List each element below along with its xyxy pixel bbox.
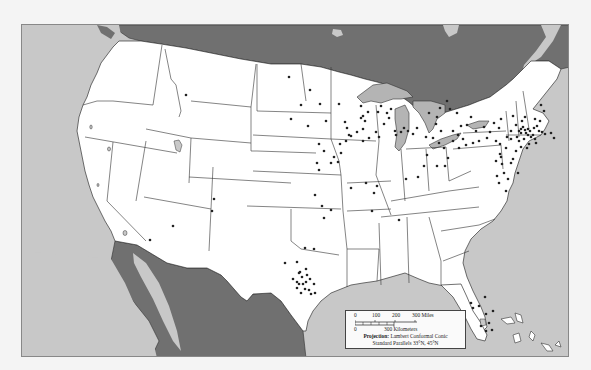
location-dot <box>498 127 501 130</box>
location-dot <box>330 209 333 212</box>
location-dot <box>486 137 489 140</box>
location-dot <box>321 205 324 208</box>
location-dot <box>403 127 406 130</box>
location-dot <box>518 130 521 133</box>
location-dot <box>485 330 488 333</box>
miles-tick-300: 300 Miles <box>412 313 434 319</box>
location-dot <box>526 147 529 150</box>
location-dot <box>491 329 494 332</box>
location-dot <box>472 142 475 145</box>
location-dot <box>493 122 496 125</box>
location-dot <box>470 302 473 305</box>
location-dot <box>309 89 312 92</box>
location-dot <box>432 137 435 140</box>
location-dot <box>346 127 349 130</box>
location-dot <box>446 100 449 103</box>
location-dot <box>310 293 313 296</box>
location-dot <box>440 130 443 133</box>
location-dot <box>307 125 310 128</box>
location-dot <box>313 248 316 251</box>
location-dot <box>466 124 469 127</box>
location-dot <box>528 143 531 146</box>
location-dot <box>298 283 301 286</box>
location-dot <box>516 136 519 139</box>
location-dot <box>211 210 214 213</box>
location-dot <box>500 156 503 159</box>
location-dot <box>305 281 308 284</box>
location-dot <box>306 274 309 277</box>
location-dot <box>500 118 503 121</box>
location-dot <box>527 134 530 137</box>
location-dot <box>524 116 527 119</box>
location-dot <box>213 198 216 201</box>
location-dot <box>457 134 460 137</box>
location-dot <box>496 175 499 178</box>
location-dot <box>532 134 535 137</box>
location-dot <box>316 162 319 165</box>
location-dot <box>364 120 367 123</box>
location-dot <box>368 137 371 140</box>
location-dot <box>510 138 513 141</box>
location-dot <box>301 276 304 279</box>
location-dot <box>296 287 299 290</box>
location-dot <box>323 217 326 220</box>
location-dot <box>314 194 317 197</box>
location-dot <box>362 140 365 143</box>
location-dot <box>339 143 342 146</box>
location-dot <box>507 178 510 181</box>
location-dot <box>447 157 450 160</box>
location-dot <box>539 120 542 123</box>
location-dot <box>383 123 386 126</box>
location-dot <box>475 130 478 133</box>
location-dot <box>304 288 307 291</box>
location-dot <box>489 131 492 134</box>
location-dot <box>337 161 340 164</box>
location-dot <box>416 127 419 130</box>
location-dot <box>506 136 509 139</box>
location-dot <box>435 123 438 126</box>
location-dot <box>305 268 308 271</box>
location-dot <box>465 144 468 147</box>
location-dot <box>309 278 312 281</box>
location-dot <box>302 283 305 286</box>
location-dot <box>533 127 536 130</box>
location-dot <box>367 111 370 114</box>
location-dot <box>386 112 389 115</box>
location-dot <box>527 128 530 131</box>
location-dot <box>288 76 291 79</box>
location-dot <box>290 118 293 121</box>
location-dot <box>492 310 495 313</box>
location-dot <box>456 112 459 115</box>
location-dot <box>534 118 537 121</box>
location-dot <box>525 132 528 135</box>
location-dot <box>452 130 455 133</box>
location-dot <box>495 160 498 163</box>
location-dot <box>478 305 481 308</box>
location-dot <box>344 121 347 124</box>
location-dot <box>400 131 403 134</box>
location-dot <box>407 130 410 133</box>
location-dot <box>362 115 365 118</box>
location-dot <box>377 111 380 114</box>
location-dot <box>550 132 553 135</box>
location-dot <box>510 130 513 133</box>
location-dot <box>323 150 326 153</box>
location-dot <box>518 140 521 143</box>
location-dot <box>360 105 363 108</box>
location-dot <box>470 116 473 119</box>
location-dot <box>172 225 175 228</box>
location-dot <box>501 163 504 166</box>
location-dot <box>436 165 439 168</box>
km-tick-300: 300 Kilometers <box>384 327 417 333</box>
location-dot <box>499 153 502 156</box>
location-dot <box>304 247 307 250</box>
location-dot <box>484 296 487 299</box>
location-dot <box>338 103 341 106</box>
location-dot <box>345 140 348 143</box>
location-dot <box>298 272 301 275</box>
location-dot <box>538 130 541 133</box>
location-dot <box>499 143 502 146</box>
location-dot <box>498 182 501 185</box>
location-dot <box>318 169 321 172</box>
miles-tick-100: 100 <box>372 313 380 319</box>
